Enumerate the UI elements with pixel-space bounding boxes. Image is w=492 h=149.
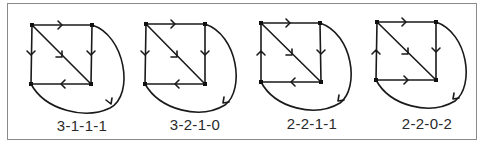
node-icon — [259, 21, 263, 25]
edge-diagonal — [377, 22, 436, 80]
node-icon — [144, 22, 148, 26]
node-icon — [143, 82, 147, 86]
digraph-3-1-1-1 — [27, 21, 124, 113]
node-icon — [30, 23, 34, 27]
edge-diagonal — [261, 23, 321, 82]
edge-diagonal — [146, 24, 205, 84]
node-icon — [203, 82, 207, 86]
node-icon — [374, 78, 378, 82]
node-icon — [29, 82, 33, 86]
diagram-label: 2-2-1-1 — [267, 115, 357, 132]
diagram-label: 3-1-1-1 — [37, 117, 127, 134]
node-icon — [375, 20, 379, 24]
node-icon — [89, 82, 93, 86]
diagram-label: 3-2-1-0 — [150, 116, 240, 133]
arrow-curve-icon — [223, 97, 229, 103]
arrow-curve-icon — [453, 93, 459, 99]
node-icon — [434, 78, 438, 82]
digraph-2-2-0-2 — [372, 18, 466, 108]
node-icon — [434, 20, 438, 24]
diagram-label: 2-2-0-2 — [382, 115, 472, 132]
digraph-3-2-1-0 — [141, 20, 236, 112]
node-icon — [259, 80, 263, 84]
node-icon — [90, 23, 94, 27]
arrow-curve-icon — [106, 98, 112, 104]
digraph-2-2-1-1 — [257, 19, 351, 110]
arrow-curve-icon — [338, 95, 344, 101]
node-icon — [319, 80, 323, 84]
node-icon — [203, 22, 207, 26]
node-icon — [318, 21, 322, 25]
